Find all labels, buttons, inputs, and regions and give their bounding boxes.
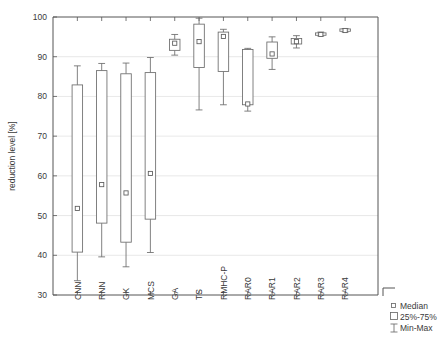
median-marker xyxy=(294,40,298,44)
median-marker xyxy=(246,102,250,106)
y-tick-label: 60 xyxy=(38,171,48,181)
x-tick-label-rnn: RNN xyxy=(97,282,107,300)
y-tick-label: 90 xyxy=(38,52,48,62)
quartile-box xyxy=(72,85,83,252)
legend-label-median: Median xyxy=(400,301,428,311)
y-tick-label: 70 xyxy=(38,131,48,141)
y-tick-label: 50 xyxy=(38,211,48,221)
box-plot-rar0 xyxy=(243,48,254,111)
x-tick-label-mcs: MCS xyxy=(146,281,156,300)
y-tick-label: 30 xyxy=(38,290,48,300)
median-marker xyxy=(173,41,177,45)
y-tick-label: 100 xyxy=(33,12,47,22)
legend-quartile-marker xyxy=(391,313,398,320)
legend-label-minmax: Min-Max xyxy=(400,323,433,333)
quartile-box xyxy=(145,73,156,220)
median-marker xyxy=(124,191,128,195)
x-tick-label-rar0: RAR0 xyxy=(243,277,253,300)
median-marker xyxy=(148,171,152,175)
x-tick-label-ga: GA xyxy=(170,287,180,300)
x-tick-label-rar2: RAR2 xyxy=(292,277,302,300)
median-marker xyxy=(343,28,347,32)
x-tick-label-gk: GK xyxy=(121,287,131,300)
median-marker xyxy=(270,52,274,56)
quartile-box xyxy=(121,74,132,242)
box-plot-cnn xyxy=(72,66,83,281)
boxplot-svg: 30405060708090100 CNNRNNGKMCSGATSRMHC-PR… xyxy=(0,0,443,347)
quartile-box xyxy=(243,50,254,105)
legend-label-quartile: 25%-75% xyxy=(400,312,437,322)
quartile-box xyxy=(194,24,205,67)
x-tick-label-rar4: RAR4 xyxy=(340,277,350,300)
y-tick-label: 80 xyxy=(38,91,48,101)
median-marker xyxy=(319,32,323,36)
quartile-box xyxy=(96,71,107,224)
x-tick-label-cnn: CNN xyxy=(73,282,83,300)
median-marker xyxy=(75,206,79,210)
y-tick-label: 40 xyxy=(38,250,48,260)
median-marker xyxy=(100,182,104,186)
box-plot-gk xyxy=(121,63,132,267)
x-tick-label-rar1: RAR1 xyxy=(267,277,277,300)
x-tick-label-ts: TS xyxy=(194,289,204,300)
median-marker xyxy=(221,34,225,38)
boxplot-figure: 30405060708090100 CNNRNNGKMCSGATSRMHC-PR… xyxy=(0,0,443,347)
median-marker xyxy=(197,40,201,44)
legend-median-marker xyxy=(392,304,396,308)
y-axis-label: reduction level [%] xyxy=(7,121,17,190)
x-tick-label-rar3: RAR3 xyxy=(316,277,326,300)
